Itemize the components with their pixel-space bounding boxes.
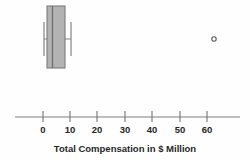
x-axis: 0 10 20 30 40 50 60 xyxy=(15,111,240,135)
axis-tick-label: 30 xyxy=(120,124,131,135)
axis-tick-label: 0 xyxy=(40,124,45,135)
axis-tick-label: 20 xyxy=(92,124,103,135)
boxplot-figure: 0 10 20 30 40 50 60 Total Compensation i… xyxy=(0,0,250,160)
boxplot-canvas: 0 10 20 30 40 50 60 Total Compensation i… xyxy=(0,0,250,160)
axis-tick-label: 60 xyxy=(202,124,213,135)
axis-tick-label: 40 xyxy=(147,124,158,135)
x-axis-title: Total Compensation in $ Million xyxy=(54,143,197,154)
iqr-box xyxy=(47,6,65,68)
outlier-point xyxy=(212,37,216,41)
axis-tick-label: 50 xyxy=(175,124,186,135)
boxplot-group xyxy=(44,6,216,68)
axis-tick-label: 10 xyxy=(65,124,76,135)
